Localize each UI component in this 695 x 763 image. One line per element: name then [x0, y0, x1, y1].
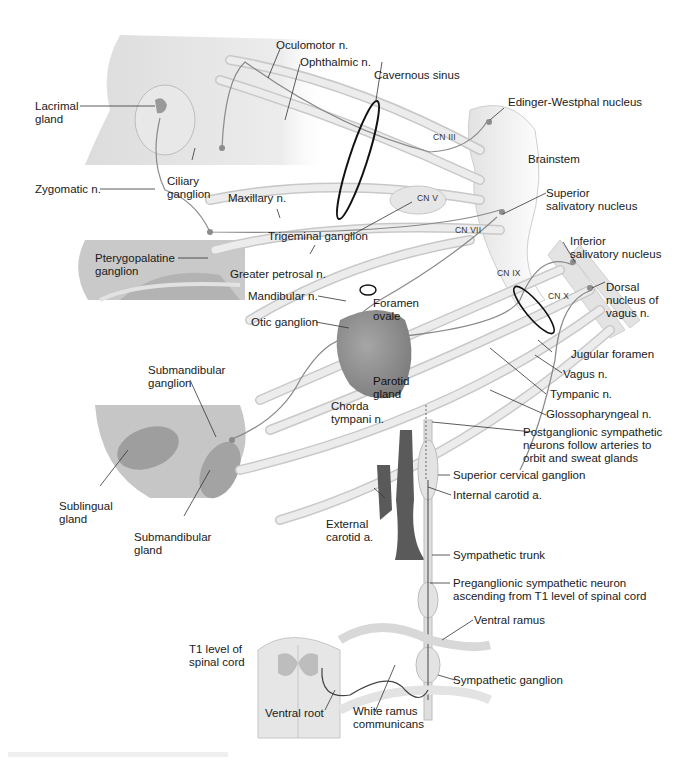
- tag-cn-iii: CN III: [433, 132, 456, 142]
- label-t1-level-spinal-cord: T1 level of spinal cord: [189, 643, 245, 669]
- label-external-carotid-artery: External carotid a.: [326, 518, 373, 544]
- label-jugular-foramen: Jugular foramen: [571, 348, 654, 361]
- label-vagus-nerve: Vagus n.: [563, 368, 608, 381]
- label-dorsal-nucleus-of-vagus: Dorsal nucleus of vagus n.: [606, 281, 658, 320]
- sympathetic-trunk: [416, 405, 440, 720]
- label-pterygopalatine-ganglion: Pterygopalatine ganglion: [95, 252, 175, 278]
- foramen-ovale-ring: [360, 285, 376, 295]
- label-postganglionic-sympathetic: Postganglionic sympathetic neurons follo…: [523, 426, 662, 465]
- label-preganglionic-sympathetic-neuron: Preganglionic sympathetic neuron ascendi…: [453, 577, 646, 603]
- label-superior-salivatory-nucleus: Superior salivatory nucleus: [546, 187, 637, 213]
- jaw-region: [95, 405, 249, 505]
- label-sympathetic-ganglion: Sympathetic ganglion: [453, 674, 563, 687]
- tag-cn-ix: CN IX: [497, 268, 521, 278]
- label-chorda-tympani: Chorda tympani n.: [331, 400, 384, 426]
- label-foramen-ovale: Foramen ovale: [373, 297, 419, 323]
- label-zygomatic-nerve: Zygomatic n.: [35, 183, 101, 196]
- figure-caption-faint: [8, 752, 228, 757]
- label-sympathetic-trunk: Sympathetic trunk: [453, 549, 545, 562]
- tag-cn-x: CN X: [548, 291, 569, 301]
- tag-cn-v: CN V: [417, 193, 438, 203]
- label-mandibular-nerve: Mandibular n.: [248, 290, 318, 303]
- label-trigeminal-ganglion: Trigeminal ganglion: [268, 230, 368, 243]
- label-ventral-ramus: Ventral ramus: [474, 614, 545, 627]
- label-inferior-salivatory-nucleus: Inferior salivatory nucleus: [570, 235, 661, 261]
- label-ventral-root: Ventral root: [265, 707, 324, 720]
- label-sublingual-gland: Sublingual gland: [59, 500, 113, 526]
- label-maxillary-nerve: Maxillary n.: [228, 192, 286, 205]
- label-otic-ganglion: Otic ganglion: [251, 316, 318, 329]
- label-parotid-gland: Parotid gland: [373, 375, 409, 401]
- label-ophthalmic-nerve: Ophthalmic n.: [300, 56, 371, 69]
- anatomy-illustration: [0, 0, 695, 763]
- label-white-ramus-communicans: White ramus communicans: [353, 705, 424, 731]
- label-glossopharyngeal-nerve: Glossopharyngeal n.: [546, 408, 651, 421]
- label-internal-carotid-artery: Internal carotid a.: [453, 489, 542, 502]
- label-brainstem: Brainstem: [528, 153, 580, 166]
- label-greater-petrosal-nerve: Greater petrosal n.: [230, 268, 326, 281]
- label-ciliary-ganglion: Ciliary ganglion: [167, 175, 210, 201]
- label-edinger-westphal-nucleus: Edinger-Westphal nucleus: [508, 96, 642, 109]
- label-cavernous-sinus: Cavernous sinus: [374, 69, 460, 82]
- label-lacrimal-gland: Lacrimal gland: [35, 100, 78, 126]
- label-oculomotor-nerve: Oculomotor n.: [276, 39, 348, 52]
- label-submandibular-gland: Submandibular gland: [134, 531, 211, 557]
- label-superior-cervical-ganglion: Superior cervical ganglion: [453, 469, 585, 482]
- label-submandibular-ganglion: Submandibular ganglion: [148, 364, 225, 390]
- carotid-arteries: [377, 430, 425, 560]
- label-tympanic-nerve: Tympanic n.: [550, 388, 612, 401]
- tag-cn-vii: CN VII: [455, 225, 481, 235]
